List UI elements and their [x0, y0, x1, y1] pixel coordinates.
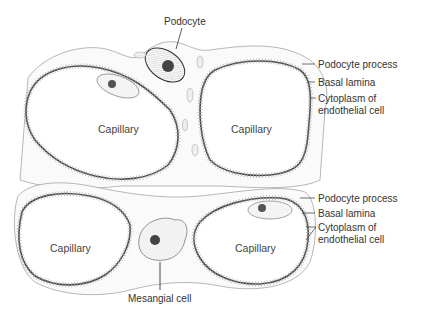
label-capillary-bottom-right: Capillary — [235, 243, 276, 254]
label-basal-lamina-bottom: Basal lamina — [318, 208, 375, 219]
label-podocyte-process-top: Podocyte process — [318, 59, 398, 70]
label-podocyte: Podocyte — [164, 16, 206, 27]
label-cytoplasm-bottom-2: endothelial cell — [318, 234, 384, 245]
label-cytoplasm-top-2: endothelial cell — [318, 105, 384, 116]
capillary-bottom-right — [194, 198, 308, 284]
capillary-top-right — [200, 61, 310, 175]
label-cytoplasm-top-1: Cytoplasm of — [318, 93, 376, 104]
label-capillary-top-left: Capillary — [98, 124, 139, 135]
label-cytoplasm-bottom-1: Cytoplasm of — [318, 222, 376, 233]
label-capillary-bottom-left: Capillary — [50, 243, 91, 254]
label-capillary-top-right: Capillary — [231, 124, 272, 135]
label-mesangial-cell: Mesangial cell — [128, 293, 191, 304]
label-podocyte-process-bottom: Podocyte process — [318, 193, 398, 204]
label-basal-lamina-top: Basal lamina — [318, 77, 375, 88]
glomerulus-diagram — [0, 0, 424, 316]
